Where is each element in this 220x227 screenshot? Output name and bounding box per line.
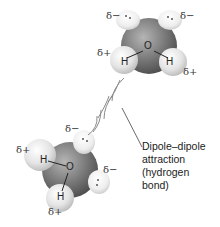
charge-label: δ+ (48, 207, 62, 217)
charge-label: δ+ (97, 48, 111, 58)
annotation-line: bond) (142, 179, 206, 192)
charge-label: δ− (106, 11, 120, 21)
molecules-illustration (0, 0, 220, 227)
atom-label-hydrogen: H (166, 57, 173, 67)
atom-label-oxygen: O (144, 41, 152, 51)
charge-label: δ− (65, 124, 79, 134)
charge-label: δ+ (16, 145, 30, 155)
atom-label-hydrogen: H (40, 155, 47, 165)
charge-label: δ+ (183, 67, 197, 77)
atom-label-oxygen: O (66, 162, 74, 172)
attraction-arcs (88, 78, 124, 135)
lone-pair-lobe (158, 10, 182, 30)
hydrogen-bond-diagram: δ− δ− δ+ δ+ O H H δ− δ− δ+ δ+ O H H Dipo… (0, 0, 220, 227)
atom-label-hydrogen: H (121, 57, 128, 67)
annotation-leader-line (122, 108, 142, 147)
charge-label: δ− (103, 165, 117, 175)
annotation-line: Dipole–dipole (142, 140, 206, 153)
charge-label: δ− (180, 11, 194, 21)
annotation-line: attraction (142, 153, 206, 166)
hydrogen-bond-annotation: Dipole–dipole attraction (hydrogen bond) (142, 140, 206, 192)
annotation-line: (hydrogen (142, 166, 206, 179)
atom-label-hydrogen: H (57, 192, 64, 202)
